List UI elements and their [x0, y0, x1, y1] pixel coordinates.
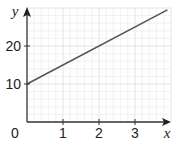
y-axis-label: y: [10, 3, 19, 19]
line-chart: 0 1 2 3 10 20 x y: [0, 0, 174, 144]
y-tick-label-20: 20: [5, 38, 21, 54]
y-tick-label-10: 10: [5, 76, 21, 92]
x-tick-label-2: 2: [95, 125, 103, 141]
grid: [27, 8, 171, 122]
origin-label: 0: [11, 125, 19, 141]
x-tick-label-1: 1: [59, 125, 67, 141]
axes: [23, 7, 171, 126]
x-tick-label-3: 3: [131, 125, 139, 141]
x-axis-label: x: [163, 125, 171, 141]
series-line: [27, 10, 167, 84]
